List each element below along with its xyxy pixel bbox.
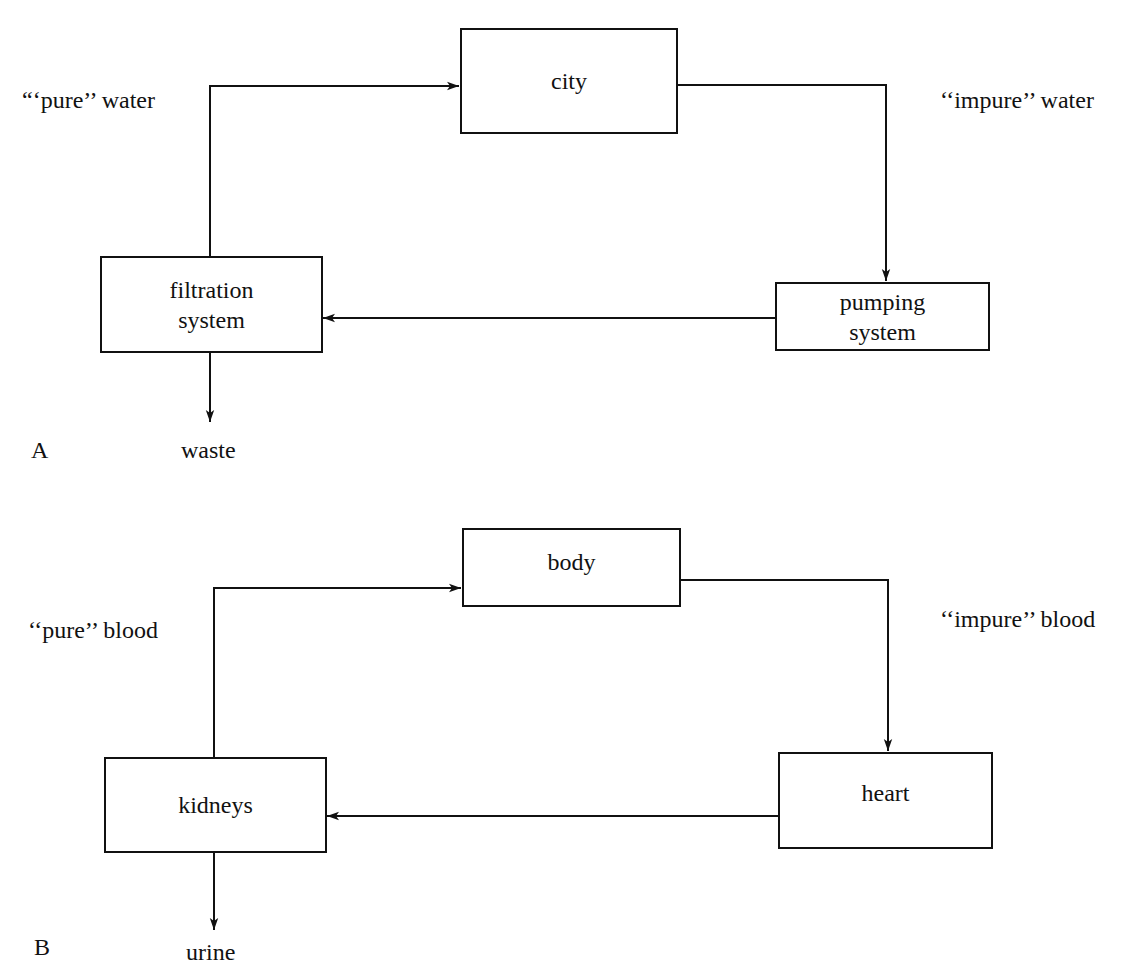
- city-label: city: [551, 66, 587, 96]
- impure-blood-label: ‘‘impure’’ blood: [940, 605, 1095, 633]
- kidneys-label: kidneys: [178, 790, 253, 820]
- pure-blood-label: ‘‘pure’’ blood: [28, 616, 158, 644]
- filtration-label-line2: system: [170, 305, 254, 335]
- impure-water-label: ‘‘impure’’ water: [940, 86, 1094, 114]
- panel-a-label: A: [31, 436, 48, 464]
- arrow-impure-blood: [680, 580, 888, 751]
- city-box: city: [460, 28, 678, 134]
- heart-box: heart: [778, 752, 993, 849]
- waste-label: waste: [181, 436, 236, 464]
- pure-water-label: “‘pure’’ water: [22, 86, 155, 114]
- body-label: body: [548, 547, 596, 577]
- pumping-system-box: pumping system: [775, 282, 990, 351]
- panel-b-label: B: [34, 933, 50, 961]
- body-box: body: [462, 528, 681, 607]
- arrow-pure-blood: [214, 588, 461, 757]
- filtration-system-box: filtration system: [100, 256, 323, 353]
- filtration-label-line1: filtration: [170, 275, 254, 305]
- arrow-impure-water: [677, 85, 886, 281]
- kidneys-box: kidneys: [104, 757, 327, 853]
- pumping-label-line2: system: [840, 317, 925, 347]
- urine-label: urine: [186, 938, 235, 966]
- pumping-label-line1: pumping: [840, 287, 925, 317]
- heart-label: heart: [862, 778, 910, 808]
- arrow-pure-water: [210, 86, 459, 256]
